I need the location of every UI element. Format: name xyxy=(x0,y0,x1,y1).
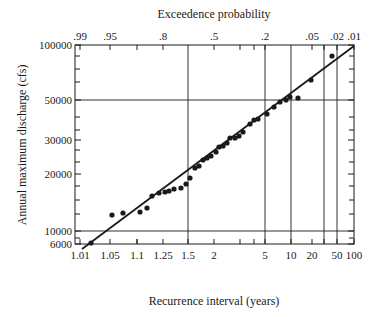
x-top-tick-label: .2 xyxy=(261,30,269,42)
y-tick-label: 30000 xyxy=(45,134,73,146)
x-top-tick-label: .95 xyxy=(103,30,117,42)
data-point xyxy=(236,133,241,138)
data-point xyxy=(144,205,149,210)
data-point xyxy=(166,188,171,193)
data-point xyxy=(109,212,114,217)
y-tick-label: 50000 xyxy=(45,94,73,106)
data-point xyxy=(88,240,93,245)
data-point xyxy=(156,190,161,195)
data-point xyxy=(329,53,334,58)
x-bottom-tick-label: 5 xyxy=(262,249,268,261)
y-axis-label: Annual maximum discharge (cfs) xyxy=(15,65,29,226)
x-top-tick-label: .8 xyxy=(159,30,168,42)
data-point xyxy=(287,94,292,99)
tick-labels: 1000005000030000200001000060001.011.051.… xyxy=(39,30,363,261)
data-point xyxy=(183,181,188,186)
axis-ticks xyxy=(75,45,354,244)
data-point xyxy=(178,185,183,190)
data-point xyxy=(308,77,313,82)
data-point xyxy=(208,153,213,158)
x-bottom-tick-label: 1.25 xyxy=(153,249,173,261)
x-top-tick-label: .05 xyxy=(305,30,319,42)
x-bottom-tick-label: 2 xyxy=(211,249,217,261)
data-point xyxy=(149,193,154,198)
y-tick-label: 100000 xyxy=(39,39,73,51)
data-point xyxy=(171,186,176,191)
x-axis-label: Recurrence interval (years) xyxy=(149,294,280,308)
data-point xyxy=(264,111,269,116)
data-point xyxy=(227,135,232,140)
x-bottom-tick-label: 50 xyxy=(332,249,344,261)
x-top-tick-label: .01 xyxy=(347,30,361,42)
x-top-tick-label: .5 xyxy=(210,30,219,42)
data-point xyxy=(224,140,229,145)
x-bottom-tick-label: 1.01 xyxy=(70,249,89,261)
x-bottom-tick-label: 10 xyxy=(286,249,298,261)
data-point xyxy=(120,210,125,215)
y-tick-label: 10000 xyxy=(45,225,73,237)
x-bottom-tick-label: 20 xyxy=(307,249,319,261)
x-top-tick-label: .99 xyxy=(73,30,87,42)
flood-frequency-chart: Exceedence probability 10000050000300002… xyxy=(0,0,383,317)
data-point xyxy=(271,104,276,109)
chart-title: Exceedence probability xyxy=(158,7,271,21)
x-bottom-tick-label: 1.1 xyxy=(130,249,144,261)
data-point xyxy=(240,129,245,134)
data-point xyxy=(213,149,218,154)
x-bottom-tick-label: 1.05 xyxy=(100,249,120,261)
y-tick-label: 6000 xyxy=(50,238,73,250)
x-bottom-tick-label: 1.5 xyxy=(181,249,195,261)
y-tick-label: 20000 xyxy=(45,168,73,180)
x-top-tick-label: .02 xyxy=(330,30,344,42)
x-bottom-tick-label: 100 xyxy=(346,249,363,261)
data-point xyxy=(277,99,282,104)
data-point xyxy=(295,95,300,100)
data-point xyxy=(247,121,252,126)
data-point xyxy=(137,209,142,214)
plot-area xyxy=(75,45,354,244)
gridlines xyxy=(75,45,354,244)
data-point xyxy=(187,175,192,180)
data-point xyxy=(196,163,201,168)
data-point xyxy=(255,116,260,121)
